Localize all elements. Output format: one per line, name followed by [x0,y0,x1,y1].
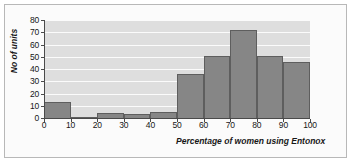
x-tick-label: 40 [139,121,161,130]
x-tick-mark [150,119,151,122]
x-tick-mark [177,119,178,122]
y-tick-label: 60 [19,41,39,49]
x-tick-mark [124,119,125,122]
x-tick-mark [257,119,258,122]
bar [177,74,204,118]
x-tick-mark [310,119,311,122]
y-tick-mark [41,69,44,70]
y-tick-mark [41,94,44,95]
x-tick-label: 80 [246,121,268,130]
y-axis-title: No of units [9,21,19,81]
x-tick-mark [204,119,205,122]
y-tick-mark [41,106,44,107]
bar [257,56,284,118]
x-tick-label: 50 [166,121,188,130]
x-tick-label: 60 [193,121,215,130]
bar [230,30,257,118]
y-tick-mark [41,32,44,33]
bar [44,102,71,118]
y-tick-label: 20 [19,90,39,98]
x-tick-label: 30 [113,121,135,130]
y-tick-mark [41,20,44,21]
y-tick-mark [41,57,44,58]
y-tick-label: 10 [19,102,39,110]
y-tick-label: 50 [19,53,39,61]
bar [283,62,310,118]
x-tick-mark [283,119,284,122]
x-tick-label: 70 [219,121,241,130]
x-tick-mark [44,119,45,122]
histogram-chart: 01020304050607080 0102030405060708090100… [0,0,353,164]
x-tick-label: 0 [33,121,55,130]
y-tick-mark [41,45,44,46]
x-tick-mark [230,119,231,122]
bar-series [44,20,310,118]
y-tick-label: 80 [19,16,39,24]
y-axis-line [44,20,45,119]
plot-area [44,20,310,118]
x-tick-label: 10 [60,121,82,130]
y-tick-label: 70 [19,28,39,36]
x-tick-mark [97,119,98,122]
x-tick-label: 90 [272,121,294,130]
x-tick-label: 20 [86,121,108,130]
bar [204,56,231,118]
y-tick-label: 40 [19,65,39,73]
y-tick-mark [41,81,44,82]
x-tick-label: 100 [299,121,321,130]
y-tick-label: 30 [19,77,39,85]
x-tick-mark [71,119,72,122]
x-axis-title: Percentage of women using Entonox [176,136,338,146]
